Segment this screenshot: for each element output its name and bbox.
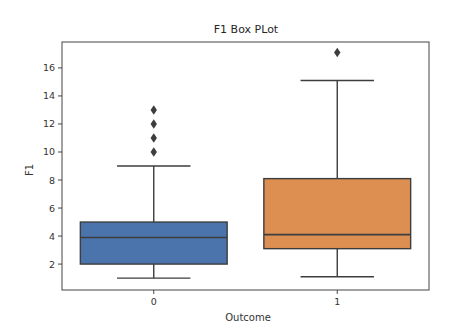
chart-title: F1 Box PLot xyxy=(214,23,279,36)
outlier-marker xyxy=(151,133,157,143)
y-tick-label: 14 xyxy=(43,90,55,101)
outlier-marker xyxy=(151,105,157,115)
plot-area xyxy=(80,48,410,278)
x-tick-label: 0 xyxy=(151,296,157,307)
x-axis-label: Outcome xyxy=(225,312,271,323)
box-iqr xyxy=(264,179,411,249)
outlier-marker xyxy=(151,119,157,129)
y-tick-label: 8 xyxy=(49,175,55,186)
y-tick-label: 16 xyxy=(43,62,55,73)
x-tick-label: 1 xyxy=(334,296,340,307)
y-tick-label: 12 xyxy=(43,118,55,129)
y-tick-label: 6 xyxy=(49,203,55,214)
y-axis-label: F1 xyxy=(24,164,35,176)
y-tick-label: 10 xyxy=(43,146,55,157)
outlier-marker xyxy=(151,147,157,157)
box-group-1 xyxy=(264,48,411,277)
y-tick-label: 2 xyxy=(49,259,55,270)
outlier-marker xyxy=(334,48,340,58)
box-group-0 xyxy=(80,105,227,278)
x-axis: 01 xyxy=(151,290,341,307)
y-axis: 246810121416 xyxy=(43,62,62,269)
box-iqr xyxy=(80,222,227,264)
y-tick-label: 4 xyxy=(49,231,55,242)
box-plot-chart: F1 Box PLot 246810121416 01 Outcome F1 xyxy=(0,0,451,333)
